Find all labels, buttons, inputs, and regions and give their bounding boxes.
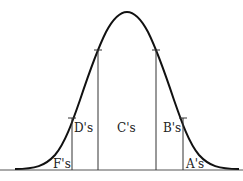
grade-distribution-diagram: F's D's C's B's A's: [0, 0, 243, 181]
label-a: A's: [185, 157, 204, 171]
label-c: C's: [117, 121, 136, 135]
bell-curve: [15, 12, 239, 169]
label-d: D's: [74, 121, 93, 135]
label-f: F's: [53, 157, 71, 171]
label-b: B's: [163, 121, 181, 135]
bell-curve-graphic: F's D's C's B's A's: [0, 0, 243, 181]
